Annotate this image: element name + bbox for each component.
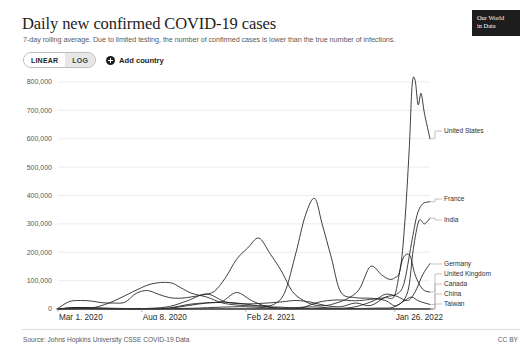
y-tick-label: 600,000	[27, 135, 52, 142]
series-legend[interactable]: United StatesFranceIndiaGermanyUnited Ki…	[431, 127, 491, 309]
y-tick-label: 500,000	[27, 164, 52, 171]
legend-label-canada[interactable]: Canada	[444, 280, 467, 287]
y-tick-label: 200,000	[27, 249, 52, 256]
add-country-button[interactable]: Add country	[106, 56, 164, 65]
y-tick-label: 300,000	[27, 220, 52, 227]
logo-line-1: Our World	[477, 14, 516, 22]
legend-label-germany[interactable]: Germany	[444, 260, 472, 268]
page-title: Daily new confirmed COVID-19 cases	[22, 14, 276, 34]
y-tick-label: 700,000	[27, 107, 52, 114]
legend-label-france[interactable]: France	[444, 195, 465, 202]
chart-subtitle: 7-day rolling average. Due to limited te…	[23, 35, 395, 44]
x-tick-label: Mar 1, 2020	[59, 313, 103, 320]
series-line	[58, 264, 430, 309]
series-line	[58, 77, 430, 308]
y-tick-label: 100,000	[27, 277, 52, 284]
legend-label-united-kingdom[interactable]: United Kingdom	[444, 270, 491, 278]
y-axis-tick-labels: 0100,000200,000300,000400,000500,000600,…	[27, 78, 52, 312]
legend-label-united-states[interactable]: United States	[444, 127, 484, 134]
logo-line-2: in Data	[477, 22, 516, 30]
series-lines	[58, 77, 430, 309]
scale-option-linear[interactable]: LINEAR	[24, 53, 65, 67]
add-country-label: Add country	[119, 56, 164, 65]
legend-leader-line	[431, 218, 442, 220]
x-axis-tick-labels: Mar 1, 2020Aug 8, 2020Feb 24, 2021Jan 26…	[58, 309, 443, 320]
chart-controls: LINEAR LOG Add country	[23, 53, 164, 67]
legend-label-taiwan[interactable]: Taiwan	[444, 300, 465, 307]
chart-plot-area[interactable]: 0100,000200,000300,000400,000500,000600,…	[0, 68, 528, 320]
legend-leader-line	[431, 274, 442, 292]
scale-toggle[interactable]: LINEAR LOG	[23, 52, 96, 68]
scale-option-log[interactable]: LOG	[65, 53, 95, 67]
y-tick-label: 400,000	[27, 192, 52, 199]
x-tick-label: Aug 8, 2020	[143, 313, 188, 320]
license-note: CC BY	[498, 336, 518, 343]
x-tick-label: Feb 24, 2021	[247, 313, 296, 320]
x-tick-label: Jan 26, 2022	[396, 313, 444, 320]
chart-page: Daily new confirmed COVID-19 cases 7-day…	[0, 0, 528, 352]
gridlines	[58, 82, 430, 281]
y-tick-label: 800,000	[27, 78, 52, 85]
legend-leader-line	[431, 131, 442, 139]
source-note: Source: Johns Hopkins University CSSE CO…	[23, 336, 189, 343]
our-world-in-data-logo: Our World in Data	[472, 10, 520, 36]
plus-circle-icon	[106, 56, 115, 65]
legend-leader-line	[431, 199, 442, 202]
series-line	[58, 202, 430, 309]
legend-label-china[interactable]: China	[444, 290, 462, 297]
y-tick-label: 0	[48, 305, 52, 312]
footer-divider	[22, 329, 520, 330]
legend-leader-line	[431, 294, 442, 309]
series-line	[58, 198, 430, 309]
legend-label-india[interactable]: India	[444, 216, 459, 223]
